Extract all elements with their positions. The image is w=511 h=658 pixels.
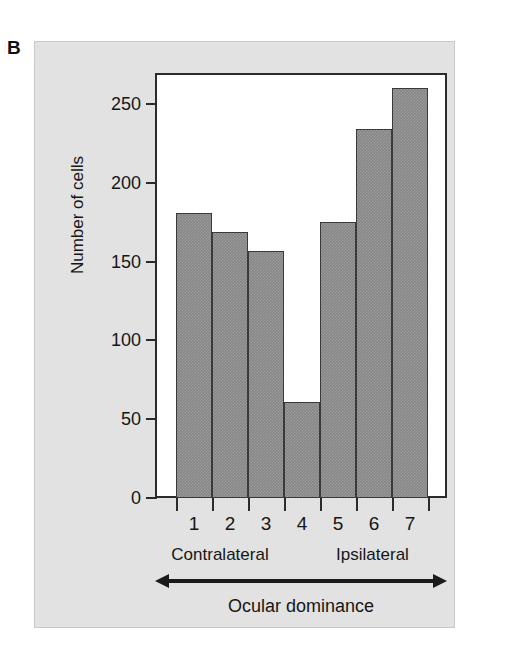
bar-category-2: [212, 232, 248, 498]
y-tick-mark: [146, 182, 157, 184]
y-tick-label: 50: [81, 409, 141, 430]
x-tick-mark: [176, 498, 178, 511]
axis-group-label-ipsilateral: Ipsilateral: [310, 545, 435, 565]
right-arrow-icon: [300, 574, 448, 588]
bar-category-3: [248, 251, 284, 498]
y-tick-label: 150: [81, 251, 141, 272]
panel-letter-label: B: [7, 37, 21, 59]
right-arrow-head-icon: [433, 574, 447, 588]
left-arrow-icon: [155, 574, 300, 588]
x-tick-label-3: 3: [251, 513, 281, 535]
x-tick-label-6: 6: [359, 513, 389, 535]
bar-category-1: [176, 213, 212, 498]
x-tick-mark: [320, 498, 322, 511]
y-tick-label: 250: [81, 94, 141, 115]
bar-category-7: [392, 88, 428, 498]
y-tick-mark: [146, 103, 157, 105]
bar-category-6: [356, 129, 392, 498]
x-tick-label-7: 7: [395, 513, 425, 535]
bar-category-5: [320, 222, 356, 498]
y-tick-mark: [146, 339, 157, 341]
bar-category-4: [284, 402, 320, 498]
y-tick-mark: [146, 497, 157, 499]
x-tick-mark: [356, 498, 358, 511]
y-tick-label: 0: [81, 488, 141, 509]
x-axis-title: Ocular dominance: [155, 596, 447, 617]
y-tick-label: 200: [81, 172, 141, 193]
y-tick-label: 100: [81, 330, 141, 351]
y-tick-mark: [146, 418, 157, 420]
x-tick-mark: [428, 498, 430, 511]
x-tick-label-2: 2: [215, 513, 245, 535]
x-tick-mark: [392, 498, 394, 511]
left-arrow-shaft: [168, 579, 300, 583]
x-tick-mark: [284, 498, 286, 511]
x-tick-mark: [248, 498, 250, 511]
left-arrow-head-icon: [155, 574, 169, 588]
y-tick-mark: [146, 261, 157, 263]
x-tick-label-5: 5: [323, 513, 353, 535]
figure-panel-b: B Monkey Number of cells 050100150200250…: [0, 0, 511, 658]
axis-group-label-contralateral: Contralateral: [150, 545, 290, 565]
x-tick-mark: [212, 498, 214, 511]
x-tick-label-4: 4: [287, 513, 317, 535]
right-arrow-shaft: [300, 579, 433, 583]
y-axis-title: Number of cells: [68, 105, 88, 325]
x-tick-label-1: 1: [179, 513, 209, 535]
